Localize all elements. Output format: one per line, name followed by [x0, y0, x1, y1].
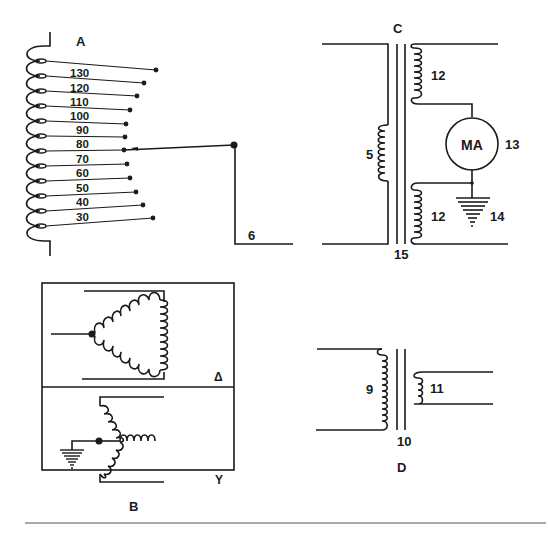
panel-b-connections: Δ Y B	[42, 283, 234, 514]
panel-d-label: D	[397, 460, 406, 475]
d-primary-coil-icon	[378, 349, 388, 430]
tapped-coil-icon	[27, 46, 45, 241]
tap-loops	[36, 59, 46, 228]
tap-label-70: 70	[76, 153, 89, 165]
delta-label: Δ	[214, 370, 223, 384]
d-secondary-label: 11	[430, 381, 444, 396]
secondary-lower-label: 12	[431, 209, 445, 224]
d-primary-label: 9	[366, 382, 373, 397]
meter-top-lead	[418, 104, 472, 117]
meter-label: 13	[505, 137, 519, 152]
delta-upper-coil-icon	[94, 293, 160, 334]
panel-b-label: B	[129, 499, 138, 514]
secondary-lower-coil-icon	[411, 183, 421, 244]
diagram-canvas: A	[0, 0, 548, 534]
wye-ground-lead	[72, 441, 99, 450]
panel-b-frame	[42, 283, 234, 470]
wye-top-lead	[100, 397, 164, 406]
tap-selector[interactable]	[124, 142, 293, 245]
tap-label-60: 60	[76, 167, 89, 179]
tap-label-100: 100	[70, 110, 89, 122]
tap-leads	[46, 61, 158, 226]
panel-a-label: A	[76, 34, 86, 49]
primary-top-lead	[322, 44, 388, 125]
panel-a-autotransformer: A	[27, 32, 294, 256]
delta-winding: Δ	[51, 291, 223, 384]
core-label: 15	[394, 247, 408, 262]
ground-icon	[456, 183, 490, 226]
secondary-upper-coil-icon	[411, 44, 421, 104]
panel-c-label: C	[393, 21, 403, 36]
wye-lower-coil-icon	[100, 442, 123, 478]
tap-label-90: 90	[76, 124, 89, 136]
meter-text: MA	[461, 137, 483, 153]
primary-coil-icon	[378, 125, 388, 181]
wye-right-coil-icon	[120, 435, 155, 441]
delta-right-coil-icon	[160, 300, 168, 370]
milliammeter: MA	[446, 118, 498, 170]
tap-label-30: 30	[76, 211, 89, 223]
output-label: 6	[248, 228, 255, 243]
tap-label-120: 120	[70, 82, 89, 94]
primary-coil-label: 5	[366, 147, 373, 162]
wye-bottom-lead	[100, 474, 164, 482]
tap-label-40: 40	[76, 196, 89, 208]
junction-dot-icon	[231, 142, 238, 149]
wye-winding: Y	[60, 397, 223, 487]
tap-labels: 130 120 110 100 90 80 70 60 50 40 30	[70, 67, 89, 223]
tap-label-80: 80	[76, 138, 89, 150]
coil-top-lead	[44, 32, 50, 46]
d-secondary-coil-icon	[414, 372, 423, 404]
tap-label-130: 130	[70, 67, 89, 79]
d-core-label: 10	[397, 434, 411, 449]
panel-c-transformer: C 5 15 12 MA 13 12	[322, 21, 519, 262]
delta-lower-coil-icon	[94, 336, 160, 377]
meter-bottom-lead	[418, 170, 472, 183]
tap-label-110: 110	[70, 96, 89, 108]
output-lead	[235, 145, 293, 244]
secondary-upper-label: 12	[431, 68, 445, 83]
tap-label-50: 50	[76, 182, 89, 194]
coil-bottom-lead	[44, 241, 50, 256]
wye-label: Y	[215, 473, 223, 487]
primary-bottom-lead	[322, 181, 388, 244]
ground-label: 14	[490, 209, 505, 224]
panel-d-transformer: 9 10 11 D	[316, 349, 493, 475]
wye-ground-icon	[60, 450, 84, 468]
